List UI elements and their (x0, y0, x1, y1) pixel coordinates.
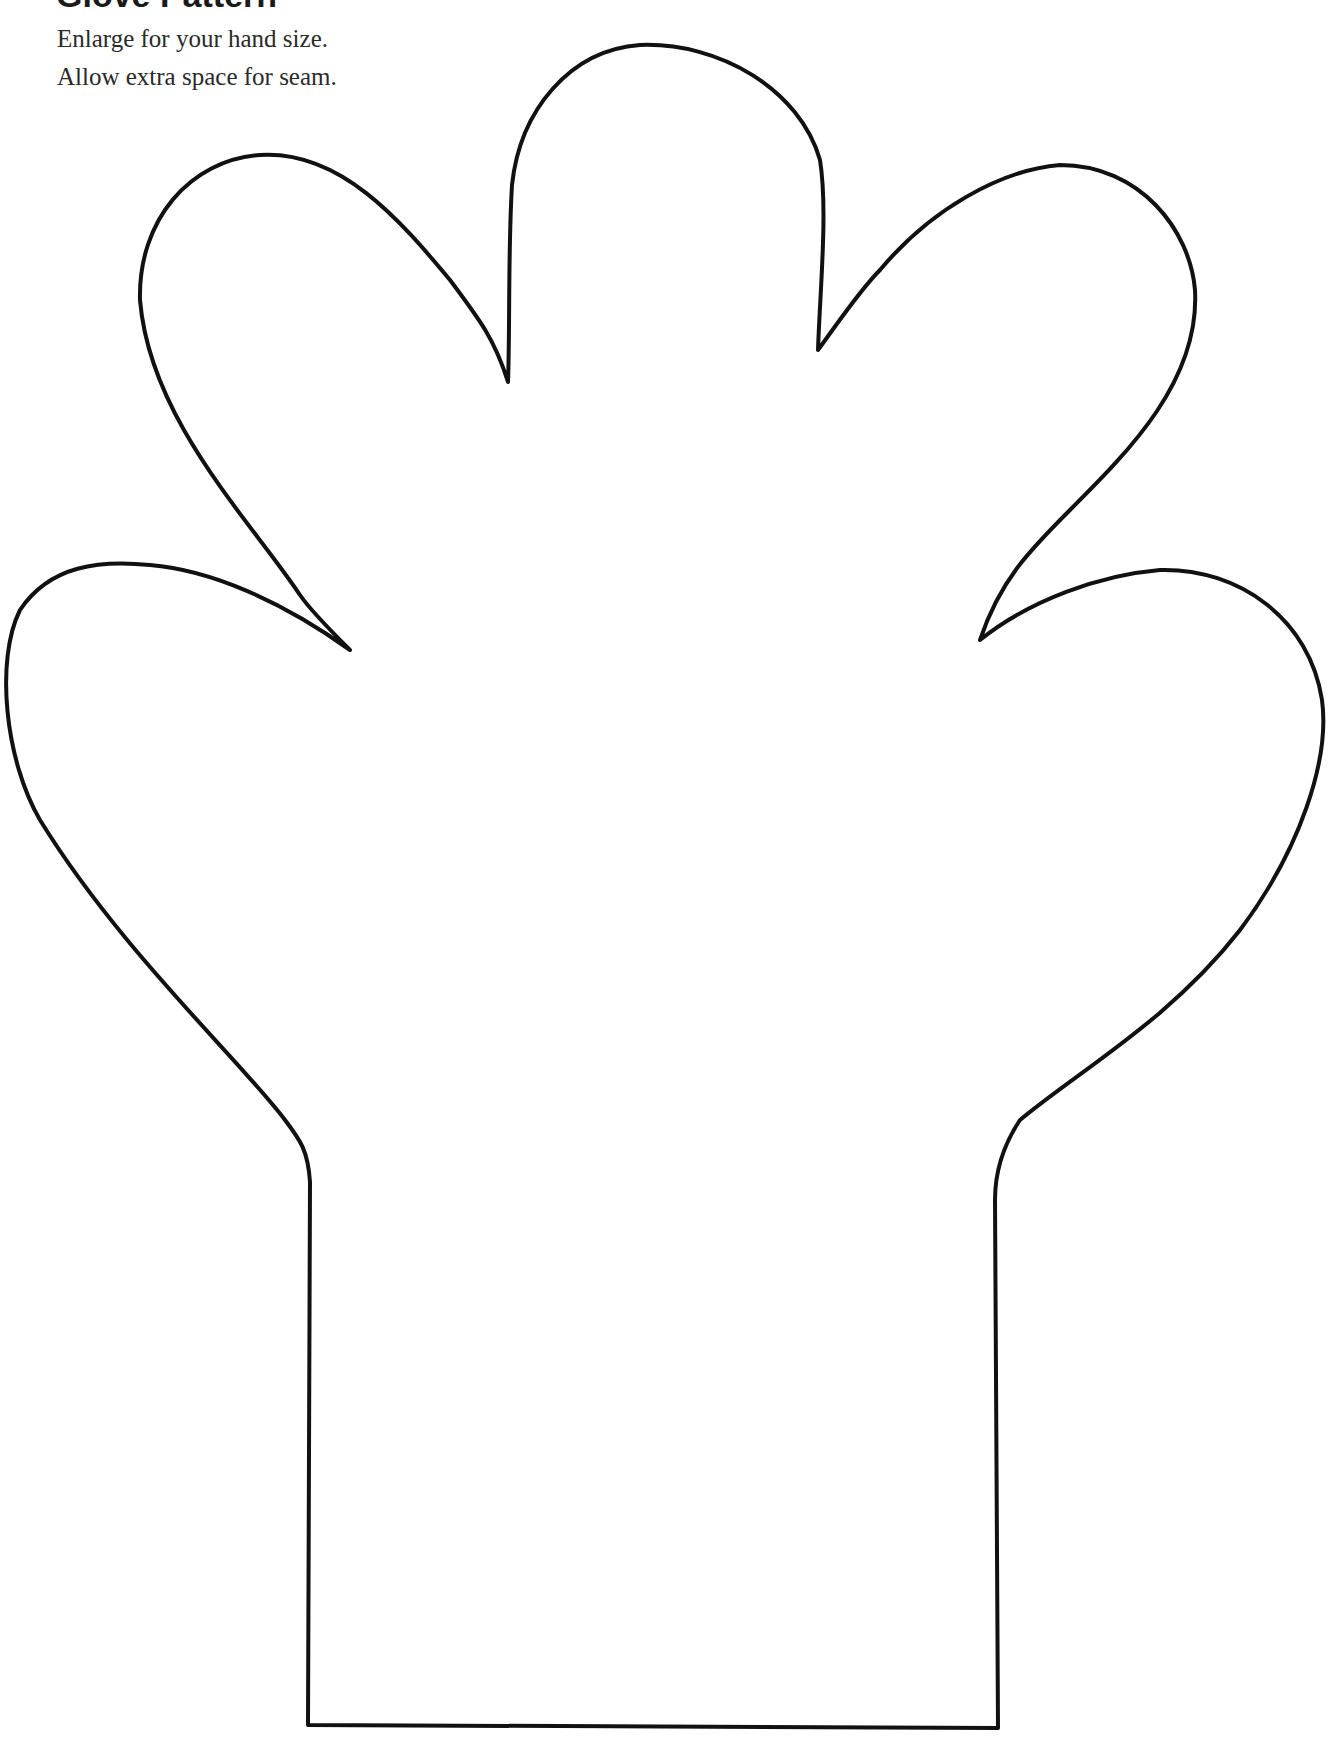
glove-outline (0, 0, 1331, 1739)
glove-outline-path (6, 45, 1323, 1728)
